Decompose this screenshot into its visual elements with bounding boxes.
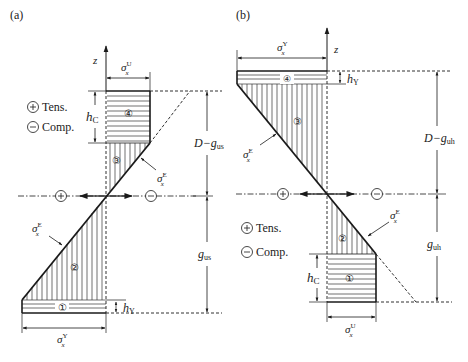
sigma-e-lower-label: σEx (390, 208, 400, 225)
panel-a-label: (a) (10, 8, 23, 22)
hy-label: hY (123, 301, 135, 316)
sigma-y-label: σYx (277, 40, 288, 57)
z-axis-label: z (92, 54, 98, 66)
hc-label: hC (86, 109, 99, 125)
minus-circle-icon (372, 189, 383, 200)
dim-gus-label: gus (198, 247, 211, 262)
svg-text:Comp.: Comp. (42, 120, 74, 134)
hc-label: hC (307, 270, 320, 286)
svg-text:Tens.: Tens. (256, 221, 282, 235)
region-1-label: ① (345, 273, 354, 284)
dim-d-minus-guh-label: D−guh (423, 131, 455, 146)
region-2-label: ② (70, 262, 79, 273)
minus-circle-icon (146, 191, 157, 202)
region-4-label: ④ (124, 108, 133, 119)
region-1-label: ① (58, 302, 67, 313)
panel-b: (b) (236, 8, 455, 339)
sigma-e-upper-label: σEx (243, 147, 253, 164)
hy-label: hY (347, 72, 359, 87)
dim-guh-label: guh (427, 237, 441, 252)
panel-a: (a) (10, 8, 224, 349)
region-2-label: ② (338, 233, 347, 244)
sigma-u-label: σUx (121, 60, 132, 77)
sigma-u-label: σUx (345, 322, 356, 339)
region-3-label: ③ (293, 116, 302, 127)
legend-tension: Tens. (242, 221, 282, 235)
plus-circle-icon (56, 191, 67, 202)
sigma-y-label: σYx (57, 332, 68, 349)
z-axis-label: z (333, 43, 339, 55)
stress-distribution-diagram: (a) (0, 0, 468, 362)
region-4-label: ④ (283, 74, 291, 84)
region-3-hatch (110, 143, 145, 191)
svg-text:Tens.: Tens. (42, 100, 68, 114)
sigma-e-lower-label: σEx (32, 221, 42, 238)
svg-text:Comp.: Comp. (256, 245, 288, 259)
legend-tension: Tens. (28, 100, 68, 114)
legend-compression: Comp. (242, 245, 289, 259)
region-3-label: ③ (112, 155, 121, 166)
plus-circle-icon (278, 189, 289, 200)
legend-compression: Comp. (28, 120, 75, 134)
dim-d-minus-gus-label: D−gus (193, 136, 224, 151)
sigma-e-upper-label: σEx (157, 171, 167, 188)
panel-b-label: (b) (236, 8, 250, 22)
